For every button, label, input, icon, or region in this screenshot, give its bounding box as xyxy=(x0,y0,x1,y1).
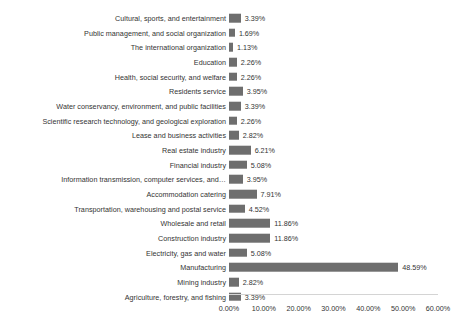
category-label: Transportation, warehousing and postal s… xyxy=(74,204,226,213)
bar xyxy=(229,102,241,111)
bar-row: Electricity, gas and water5.08% xyxy=(0,245,458,260)
bar-row: Education2.26% xyxy=(0,55,458,70)
bar-value-label: 11.86% xyxy=(274,234,298,243)
bar xyxy=(229,43,233,52)
bar xyxy=(229,204,245,213)
bar xyxy=(229,263,398,272)
bar-row: The international organization1.13% xyxy=(0,40,458,55)
bar-value-label: 6.21% xyxy=(255,146,275,155)
bar-value-label: 2.26% xyxy=(241,116,261,125)
bar-value-label: 2.26% xyxy=(241,58,261,67)
bar-row: Lease and business activities2.82% xyxy=(0,128,458,143)
category-label: Water conservancy, environment, and publ… xyxy=(56,102,226,111)
category-label: Agriculture, forestry, and fishing xyxy=(125,292,226,301)
bar-row: Agriculture, forestry, and fishing3.39% xyxy=(0,289,458,304)
category-label: Lease and business activities xyxy=(132,131,226,140)
bar-value-label: 3.95% xyxy=(247,87,267,96)
bar-chart: Cultural, sports, and entertainment3.39%… xyxy=(0,0,458,327)
bar-row: Water conservancy, environment, and publ… xyxy=(0,99,458,114)
bar-row: Real estate industry6.21% xyxy=(0,143,458,158)
x-tick-label: 30.00% xyxy=(321,304,345,314)
bar xyxy=(229,131,239,140)
bar xyxy=(229,175,243,184)
bar-value-label: 2.82% xyxy=(243,131,263,140)
category-label: Residents service xyxy=(169,87,226,96)
bar-row: Financial industry5.08% xyxy=(0,157,458,172)
x-tick-label: 20.00% xyxy=(286,304,310,314)
bar xyxy=(229,87,243,96)
bar-row: Scientific research technology, and geol… xyxy=(0,113,458,128)
category-label: Cultural, sports, and entertainment xyxy=(115,13,226,22)
bar xyxy=(229,146,251,155)
x-tick-label: 10.00% xyxy=(252,304,276,314)
bar-value-label: 2.82% xyxy=(243,278,263,287)
bar-value-label: 11.86% xyxy=(274,219,298,228)
category-label: Wholesale and retail xyxy=(160,219,226,228)
bar-value-label: 4.52% xyxy=(249,204,269,213)
bar xyxy=(229,28,235,37)
category-label: Manufacturing xyxy=(180,263,226,272)
bar xyxy=(229,248,247,257)
category-label: Education xyxy=(194,58,226,67)
bar xyxy=(229,14,241,23)
x-axis-line xyxy=(229,294,438,295)
category-label: Construction industry xyxy=(158,234,226,243)
bar-value-label: 3.39% xyxy=(245,102,265,111)
bar-value-label: 3.39% xyxy=(245,13,265,22)
bar xyxy=(229,190,257,199)
bar-value-label: 2.26% xyxy=(241,72,261,81)
bar-row: Accommodation catering7.91% xyxy=(0,187,458,202)
bar xyxy=(229,72,237,81)
category-label: Public management, and social organizati… xyxy=(84,28,226,37)
bar-row: Manufacturing48.59% xyxy=(0,260,458,275)
bar-row: Mining industry2.82% xyxy=(0,275,458,290)
bar-value-label: 1.69% xyxy=(239,28,259,37)
bar-value-label: 3.95% xyxy=(247,175,267,184)
bar-value-label: 5.08% xyxy=(251,248,271,257)
category-label: Financial industry xyxy=(170,160,226,169)
bar xyxy=(229,234,270,243)
bar-row: Construction industry11.86% xyxy=(0,231,458,246)
x-tick-label: 0.00% xyxy=(219,304,239,314)
category-label: The international organization xyxy=(131,43,226,52)
bar xyxy=(229,116,237,125)
bar xyxy=(229,278,239,287)
category-label: Mining industry xyxy=(177,278,226,287)
bar xyxy=(229,219,270,228)
bar-value-label: 48.59% xyxy=(402,263,426,272)
bar-row: Cultural, sports, and entertainment3.39% xyxy=(0,11,458,26)
bar-row: Transportation, warehousing and postal s… xyxy=(0,201,458,216)
bar-value-label: 5.08% xyxy=(251,160,271,169)
bar-row: Residents service3.95% xyxy=(0,84,458,99)
category-label: Real estate industry xyxy=(162,146,226,155)
bar-row: Public management, and social organizati… xyxy=(0,25,458,40)
x-tick-label: 50.00% xyxy=(391,304,415,314)
x-tick-label: 40.00% xyxy=(356,304,380,314)
bar-row: Wholesale and retail11.86% xyxy=(0,216,458,231)
bar-value-label: 7.91% xyxy=(261,190,281,199)
category-label: Health, social security, and welfare xyxy=(115,72,226,81)
category-label: Scientific research technology, and geol… xyxy=(42,116,226,125)
x-axis-tick-labels: 0.00%10.00%20.00%30.00%40.00%50.00%60.00… xyxy=(0,304,458,316)
x-tick-label: 60.00% xyxy=(426,304,450,314)
category-label: Information transmission, computer servi… xyxy=(61,175,226,184)
category-label: Electricity, gas and water xyxy=(146,248,226,257)
bar-value-label: 1.13% xyxy=(237,43,257,52)
bar xyxy=(229,160,247,169)
category-label: Accommodation catering xyxy=(146,190,226,199)
bar xyxy=(229,58,237,67)
bar-row: Health, social security, and welfare2.26… xyxy=(0,69,458,84)
bar-row: Information transmission, computer servi… xyxy=(0,172,458,187)
